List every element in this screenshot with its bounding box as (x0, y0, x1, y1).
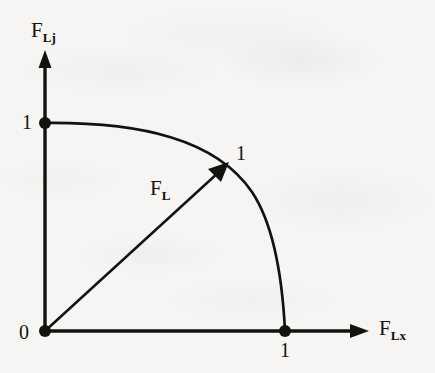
x-axis-label-subscript: Lx (391, 328, 407, 343)
y-axis-arrowhead-icon (39, 50, 52, 68)
force-vector-label-subscript: L (162, 188, 171, 203)
y-axis-label-subscript: Lj (43, 30, 56, 45)
vector-tip-label-one: 1 (236, 143, 246, 163)
origin-dot-marker (39, 325, 51, 337)
force-vector-label-base: F (150, 176, 162, 200)
y-axis-label-base: F (31, 18, 43, 42)
force-vector-label: FL (150, 178, 170, 202)
x-tick-dot-marker (279, 325, 291, 337)
x-tick-label-one: 1 (280, 340, 290, 360)
force-vector-line (45, 172, 219, 331)
x-axis-label-base: F (379, 316, 391, 340)
figure-canvas: FLj FLx FL 0 1 1 1 (0, 0, 435, 373)
x-axis-label: FLx (379, 318, 406, 342)
y-tick-dot-marker (39, 117, 51, 129)
x-axis-arrowhead-icon (350, 324, 369, 338)
origin-label: 0 (19, 322, 29, 342)
y-tick-label-one: 1 (22, 112, 32, 132)
plot-drawing (0, 0, 435, 373)
y-axis-label: FLj (31, 20, 56, 44)
